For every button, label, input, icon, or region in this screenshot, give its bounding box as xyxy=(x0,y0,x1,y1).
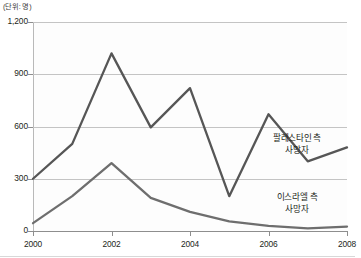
x-tick-label-2004: 2004 xyxy=(173,239,207,249)
footer-divider xyxy=(0,256,355,257)
annotation-israeli-line1: 이스라엘 측 xyxy=(249,192,345,204)
x-tick-mark-2004 xyxy=(190,231,191,236)
y-tick-label-900: 900 xyxy=(0,69,28,78)
annotation-palestinian-line2: 사망자 xyxy=(249,145,345,157)
x-tick-label-2006: 2006 xyxy=(252,239,286,249)
x-tick-label-2002: 2002 xyxy=(95,239,129,249)
x-tick-label-2000: 2000 xyxy=(16,239,50,249)
annotation-israeli-line2: 사망자 xyxy=(249,204,345,216)
annotation-israeli-deaths: 이스라엘 측 사망자 xyxy=(249,192,345,215)
x-tick-mark-2006 xyxy=(269,231,270,236)
x-tick-mark-2008 xyxy=(347,231,348,236)
annotation-palestinian-line1: 팔레스타인 측 xyxy=(249,133,345,145)
x-tick-mark-2000 xyxy=(33,231,34,236)
y-tick-label-300: 300 xyxy=(0,174,28,183)
unit-label: (단위: 명) xyxy=(3,2,31,11)
annotation-palestinian-deaths: 팔레스타인 측 사망자 xyxy=(249,133,345,156)
series-line-palestinian xyxy=(33,53,347,196)
x-tick-mark-2002 xyxy=(112,231,113,236)
x-tick-label-2008: 2008 xyxy=(330,239,361,249)
y-tick-label-600: 600 xyxy=(0,122,28,131)
y-tick-label-1200: 1,200 xyxy=(0,17,28,26)
y-tick-label-0: 0 xyxy=(0,226,28,235)
